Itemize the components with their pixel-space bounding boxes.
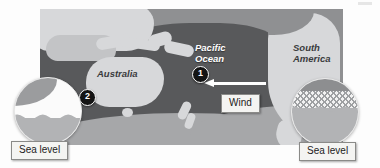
label-wind: Wind [221, 94, 260, 113]
inset-right-sea-level [291, 78, 359, 146]
label-sea-level-right: Sea level [299, 142, 356, 161]
arrow-shaft [212, 82, 266, 85]
wave-shape [291, 103, 359, 113]
tasmania [122, 108, 133, 117]
inset-right-seafloor-wave [291, 103, 359, 113]
marker-1[interactable]: 1 [192, 66, 209, 83]
wind-arrow-icon [204, 79, 266, 88]
figure-root: Pacific Ocean South America Australia Wi… [0, 0, 380, 168]
label-australia: Australia [97, 68, 138, 79]
wave-shape [14, 112, 82, 122]
inset-left-sea-level [14, 77, 82, 145]
label-south-america: South America [293, 42, 331, 64]
label-pacific-ocean: Pacific Ocean [195, 42, 226, 64]
australia-landmass [86, 57, 164, 107]
label-sea-level-left: Sea level [11, 141, 68, 160]
inset-right-seafloor [291, 108, 359, 146]
page-speck [358, 2, 372, 5]
inset-left-seafloor-wave [14, 112, 82, 122]
marker-2[interactable]: 2 [79, 89, 96, 106]
